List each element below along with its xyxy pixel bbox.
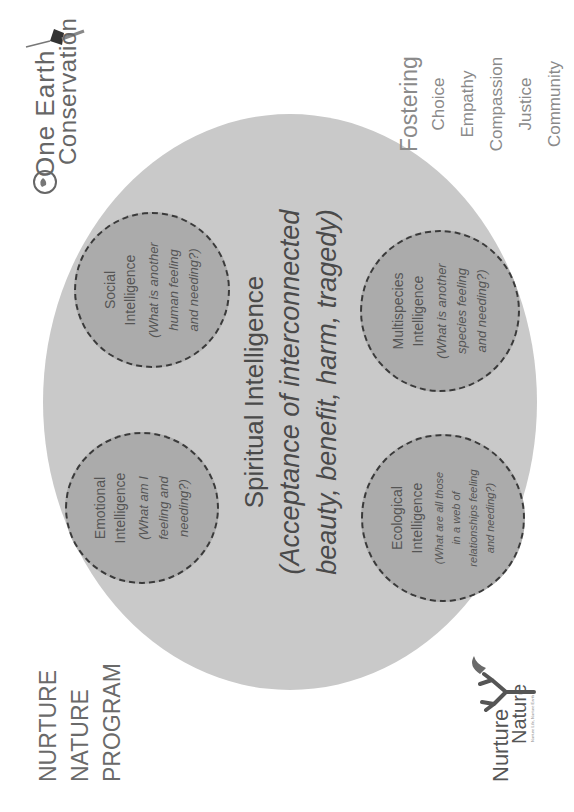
circle-question: (What am I feeling and needing?) bbox=[134, 476, 194, 540]
circle-question: (What is another human feeling and needi… bbox=[144, 242, 204, 337]
circle-question: (What are all those in a web of relation… bbox=[431, 469, 499, 566]
fostering-heading: Fostering bbox=[394, 56, 424, 152]
spiritual-desc-line2: beauty, benefit, harm, tragedy) bbox=[309, 172, 346, 612]
rotated-page: NURTURE NATURE PROGRAM Nurture Nature Nu… bbox=[0, 0, 574, 812]
logo-word-nature: Nature bbox=[508, 684, 531, 744]
fostering-item: Empathy bbox=[453, 56, 482, 152]
program-line: PROGRAM bbox=[96, 663, 128, 782]
program-line: NATURE bbox=[64, 663, 96, 782]
circle-title: Multispecies bbox=[388, 272, 408, 349]
program-title: NURTURE NATURE PROGRAM bbox=[32, 663, 128, 782]
spiritual-desc-line1: (Acceptance of interconnected bbox=[272, 172, 309, 612]
circle-title: Social bbox=[100, 271, 120, 309]
fostering-item: Community bbox=[540, 56, 569, 152]
social-intelligence-circle: Social Intelligence (What is another hum… bbox=[74, 212, 230, 368]
circle-title: Intelligence bbox=[408, 276, 428, 347]
logo-line-conservation: Conservation bbox=[54, 18, 82, 165]
nurture-nature-logo: Nurture Nature Nurture Life, Nurture Ear… bbox=[466, 652, 540, 792]
spiritual-title: Spiritual Intelligence bbox=[236, 172, 272, 612]
logo-tagline: Nurture Life, Nurture Earth bbox=[530, 695, 535, 742]
multispecies-intelligence-circle: Multispecies Intelligence (What is anoth… bbox=[360, 230, 520, 392]
program-line: NURTURE bbox=[32, 663, 64, 782]
circle-title: Intelligence bbox=[407, 483, 427, 554]
circle-question: (What is another species feeling and nee… bbox=[432, 263, 492, 358]
fostering-list: Fostering Choice Empathy Compassion Just… bbox=[394, 56, 569, 152]
circle-title: Ecological bbox=[387, 486, 407, 550]
spiritual-intelligence-text: Spiritual Intelligence (Acceptance of in… bbox=[236, 172, 346, 612]
fostering-item: Choice bbox=[424, 56, 453, 152]
fostering-item: Compassion bbox=[482, 56, 511, 152]
circle-title: Intelligence bbox=[110, 473, 130, 544]
emotional-intelligence-circle: Emotional Intelligence (What am I feelin… bbox=[65, 432, 219, 584]
ecological-intelligence-circle: Ecological Intelligence (What are all th… bbox=[361, 434, 525, 602]
one-earth-conservation-logo: One Earth Conservation bbox=[28, 27, 90, 187]
circle-title: Intelligence bbox=[120, 255, 140, 326]
circle-title: Emotional bbox=[90, 477, 110, 539]
fostering-item: Justice bbox=[511, 56, 540, 152]
